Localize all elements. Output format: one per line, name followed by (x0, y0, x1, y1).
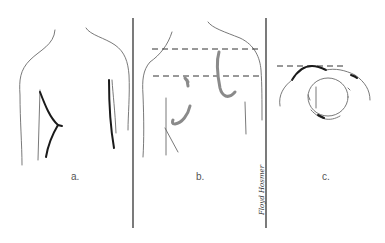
panel-label-b: b. (196, 171, 204, 182)
artist-signature: Floyd Hosmer (258, 164, 266, 216)
panel-label-a: a. (71, 171, 79, 182)
panel-c-drawing (277, 66, 370, 119)
panel-a-drawing (20, 28, 130, 165)
panel-b-drawing (143, 22, 262, 157)
panel-label-c: c. (322, 171, 330, 182)
illustration-figure: Floyd Hosmer (0, 0, 385, 243)
